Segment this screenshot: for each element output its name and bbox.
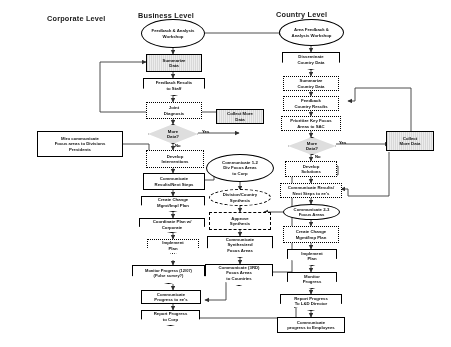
node-cty-area-workshop[interactable]: Area Feedback & Analysis Workshop (279, 19, 344, 46)
node-mid-approve-synthesis[interactable]: Approve Synthesis (209, 212, 271, 230)
node-cty-collect-more[interactable]: Collect More Data (386, 131, 434, 151)
header-corporate-level: Corporate Level (47, 14, 106, 23)
node-cty-communicate-employees[interactable]: Communicate progress to Employees (277, 317, 345, 333)
node-biz-collect-more[interactable]: Collect More Data (216, 109, 264, 124)
node-mid-communicate-div-focus[interactable]: Communicate 1-2 Div Focus Areas to Corp (206, 154, 274, 182)
node-biz-communicate-ees[interactable]: Communicate Progress to ee's (141, 290, 201, 304)
label-biz-yes: Yes (202, 129, 209, 134)
node-biz-summarize[interactable]: Summarize Data (146, 54, 202, 72)
node-biz-communicate-results[interactable]: Communicate Results/Next Steps (143, 173, 205, 190)
node-cty-develop-solutions[interactable]: Develop Solutions (285, 161, 337, 177)
label-biz-no: No (175, 143, 181, 148)
node-cty-communicate-results[interactable]: Communicate Results/ Next Steps to ee's (280, 183, 342, 198)
node-cty-feedback-results[interactable]: Feedback Country Results (283, 96, 339, 111)
node-cty-prioritize[interactable]: Prioritize Key Focus Areas to SAC (281, 116, 341, 131)
diagram-canvas: Corporate Level Business Level Country L… (0, 0, 451, 347)
label-cty-no: No (315, 154, 321, 159)
node-biz-joint-diagnosis[interactable]: Joint Diagnosis (146, 102, 202, 119)
node-biz-develop-interventions[interactable]: Develop Interventions (146, 150, 204, 168)
node-corp-communicate-focus[interactable]: Miro communicate Focus areas to Division… (37, 131, 123, 157)
node-cty-communicate-focus[interactable]: Communicate 2-3 Focus Areas (283, 204, 340, 220)
node-cty-create-change-plan[interactable]: Create Change Mgmt/Imp Plan (283, 226, 339, 243)
header-country-level: Country Level (276, 10, 327, 19)
node-cty-summarize[interactable]: Summarize Country Data (283, 76, 339, 91)
node-mid-div-country-synthesis[interactable]: Division/Country Synthesis (209, 189, 271, 206)
label-cty-yes: Yes (339, 140, 346, 145)
node-biz-workshop[interactable]: Feedback & Analysis Workshop (141, 19, 205, 48)
